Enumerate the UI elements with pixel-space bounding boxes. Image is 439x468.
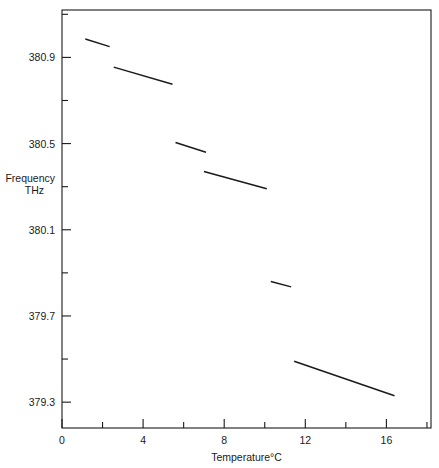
y-axis-title-line1: Frequency: [5, 172, 55, 184]
y-tick-label: 379.7: [29, 310, 55, 322]
x-tick-label: 12: [299, 434, 311, 446]
y-tick-label: 380.5: [29, 138, 55, 150]
x-tick-label: 0: [59, 434, 65, 446]
x-tick-label: 16: [381, 434, 393, 446]
y-axis-title-line2: THz: [25, 184, 44, 196]
x-tick-label: 8: [221, 434, 227, 446]
x-tick-label: 4: [140, 434, 146, 446]
frequency-vs-temperature-chart: 0481216 380.9380.5380.1379.7379.3 Temper…: [0, 0, 439, 468]
y-tick-label: 380.9: [29, 51, 55, 63]
y-tick-label: 379.3: [29, 396, 55, 408]
x-axis-title: Temperature°C: [211, 451, 282, 463]
y-tick-label: 380.1: [29, 224, 55, 236]
chart-background: [0, 0, 439, 468]
chart-canvas: 0481216 380.9380.5380.1379.7379.3 Temper…: [0, 0, 439, 468]
